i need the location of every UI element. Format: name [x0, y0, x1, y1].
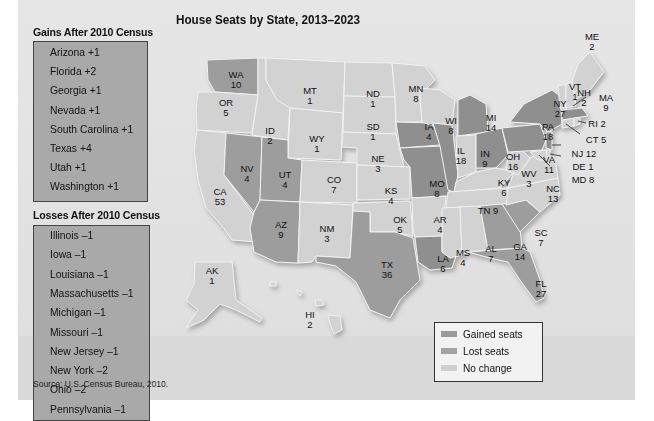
- state-label-la: LA6: [437, 253, 449, 274]
- state-label-ms: MS4: [456, 247, 470, 268]
- legend-swatch: [441, 331, 457, 337]
- state-label-mi: MI14: [486, 112, 497, 133]
- legend-item-no-change: No change: [441, 361, 516, 375]
- state-label-pa: PA18: [542, 121, 555, 142]
- legend-label: Lost seats: [463, 345, 509, 357]
- legend-swatch: [441, 365, 457, 371]
- state-ma: [562, 108, 588, 120]
- map-legend: Gained seatsLost seatsNo change: [434, 322, 543, 382]
- state-label-me: ME2: [585, 31, 599, 52]
- state-label-ma: MA9: [599, 92, 614, 113]
- state-label-ny: NY27: [553, 98, 567, 119]
- state-label-de: DE 1: [572, 161, 593, 172]
- state-label-tx: TX36: [381, 259, 394, 280]
- legend-item-gained: Gained seats: [441, 327, 528, 341]
- state-label-md: MD 8: [572, 174, 595, 185]
- state-ak: [186, 262, 262, 328]
- state-label-va: VA11: [543, 154, 556, 175]
- state-label-ca: CA53: [213, 186, 227, 207]
- state-ri: [574, 118, 580, 126]
- state-fl: [468, 248, 544, 302]
- state-label-tn: TN 9: [478, 205, 499, 216]
- source-note: Source: U.S. Census Bureau, 2010.: [33, 379, 168, 389]
- state-label-nc: NC13: [546, 183, 560, 204]
- legend-label: Gained seats: [463, 328, 523, 340]
- legend-label: No change: [463, 362, 512, 374]
- state-label-oh: OH16: [506, 151, 520, 172]
- state-label-ri: RI 2: [588, 118, 605, 129]
- legend-item-lost: Lost seats: [441, 344, 513, 358]
- state-label-al: AL7: [485, 243, 497, 264]
- state-label-sc: SC7: [534, 227, 547, 248]
- state-az: [250, 200, 300, 263]
- state-label-ct: CT 5: [586, 134, 606, 145]
- legend-swatch: [441, 348, 457, 354]
- state-hi: [270, 282, 342, 334]
- state-pa: [502, 124, 546, 152]
- state-label-il: IL18: [456, 145, 467, 166]
- state-label-hi: HI2: [305, 309, 315, 330]
- state-mi: [458, 95, 488, 136]
- state-label-nj: NJ 12: [572, 148, 597, 159]
- state-ks: [357, 165, 410, 200]
- state-label-nh: NH2: [577, 87, 591, 108]
- state-label-fl: FL27: [535, 278, 546, 299]
